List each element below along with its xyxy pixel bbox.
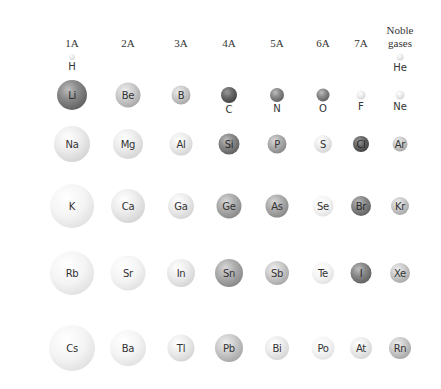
element-sphere-kr: Kr (391, 197, 409, 215)
element-symbol-in: In (177, 268, 186, 279)
element-symbol-ba: Ba (122, 343, 134, 354)
element-sphere-o (317, 89, 330, 102)
element-symbol-bi: Bi (272, 343, 281, 354)
element-symbol-li: Li (68, 90, 76, 101)
element-symbol-cs: Cs (66, 343, 78, 354)
group-header-line2: gases (387, 37, 414, 50)
element-symbol-k: K (69, 201, 75, 212)
element-sphere-pb: Pb (215, 334, 243, 362)
element-sphere-li: Li (57, 80, 87, 110)
element-sphere-ba: Ba (110, 330, 146, 366)
element-sphere-ge: Ge (217, 194, 242, 219)
element-sphere-at: At (350, 337, 372, 359)
element-sphere-na: Na (54, 126, 90, 162)
element-symbol-o: O (319, 103, 327, 114)
element-sphere-cl: Cl (353, 136, 369, 152)
element-symbol-pb: Pb (223, 343, 235, 354)
element-sphere-ga: Ga (168, 193, 194, 219)
element-sphere-bi: Bi (265, 336, 289, 360)
element-symbol-ge: Ge (222, 201, 235, 212)
group-header-5a: 5A (270, 37, 283, 50)
element-symbol-cl: Cl (356, 139, 365, 150)
element-symbol-sr: Sr (123, 268, 133, 279)
element-sphere-s: S (314, 135, 332, 153)
element-symbol-he: He (393, 62, 407, 73)
element-sphere-he (397, 54, 404, 61)
element-symbol-ca: Ca (122, 201, 135, 212)
element-sphere-rb: Rb (50, 251, 94, 295)
element-sphere-rn: Rn (389, 337, 411, 359)
element-symbol-be: Be (122, 90, 134, 101)
element-sphere-be: Be (116, 83, 141, 108)
element-sphere-as: As (266, 195, 289, 218)
element-sphere-p: P (268, 135, 287, 154)
group-header-4a: 4A (222, 37, 235, 50)
element-sphere-si: Si (219, 134, 240, 155)
element-symbol-tl: Tl (177, 343, 185, 354)
element-symbol-al: Al (176, 139, 185, 150)
element-symbol-ar: Ar (395, 139, 405, 150)
element-sphere-n (270, 88, 284, 102)
element-symbol-c: C (226, 104, 233, 115)
element-symbol-as: As (271, 201, 282, 212)
element-sphere-f (357, 91, 366, 100)
element-sphere-al: Al (170, 133, 193, 156)
element-symbol-rb: Rb (66, 268, 79, 279)
element-symbol-te: Te (318, 268, 328, 279)
element-symbol-mg: Mg (121, 139, 135, 150)
group-header-line1: Noble (387, 24, 414, 37)
group-header-noble: Noblegases (387, 24, 414, 50)
element-sphere-h (69, 54, 75, 60)
element-symbol-p: P (274, 139, 280, 150)
element-symbol-ne: Ne (393, 101, 407, 112)
element-sphere-c (221, 87, 237, 103)
group-header-7a: 7A (354, 37, 367, 50)
element-sphere-k: K (50, 184, 94, 228)
element-symbol-xe: Xe (394, 268, 406, 279)
element-symbol-h: H (68, 61, 76, 72)
element-symbol-na: Na (65, 139, 78, 150)
element-symbol-b: B (178, 90, 185, 101)
element-sphere-tl: Tl (168, 335, 195, 362)
element-symbol-i: I (360, 268, 363, 279)
element-sphere-br: Br (351, 196, 371, 216)
element-sphere-i: I (351, 263, 372, 284)
group-header-3a: 3A (174, 37, 187, 50)
element-symbol-po: Po (317, 343, 328, 354)
element-symbol-br: Br (356, 201, 366, 212)
group-header-2a: 2A (121, 37, 134, 50)
element-sphere-ar: Ar (393, 137, 408, 152)
element-sphere-sn: Sn (215, 259, 243, 287)
element-sphere-sb: Sb (265, 261, 289, 285)
element-sphere-xe: Xe (390, 263, 410, 283)
element-sphere-ca: Ca (111, 189, 145, 223)
element-symbol-se: Se (317, 201, 329, 212)
element-sphere-sr: Sr (111, 256, 146, 291)
element-sphere-te: Te (312, 262, 334, 284)
group-header-1a: 1A (65, 37, 78, 50)
element-symbol-f: F (358, 101, 364, 112)
element-sphere-b: B (172, 86, 191, 105)
element-symbol-at: At (356, 343, 366, 354)
element-symbol-sn: Sn (223, 268, 235, 279)
element-sphere-po: Po (312, 337, 335, 360)
element-sphere-se: Se (313, 196, 334, 217)
element-symbol-n: N (273, 103, 280, 114)
group-header-6a: 6A (316, 37, 329, 50)
element-sphere-cs: Cs (49, 325, 95, 371)
element-sphere-ne (396, 91, 405, 100)
element-symbol-rn: Rn (394, 343, 407, 354)
element-sphere-mg: Mg (113, 129, 143, 159)
element-symbol-s: S (320, 139, 326, 150)
element-symbol-sb: Sb (271, 268, 283, 279)
element-symbol-ga: Ga (174, 201, 187, 212)
element-symbol-kr: Kr (395, 201, 405, 212)
element-sphere-in: In (167, 259, 195, 287)
element-symbol-si: Si (225, 139, 234, 150)
